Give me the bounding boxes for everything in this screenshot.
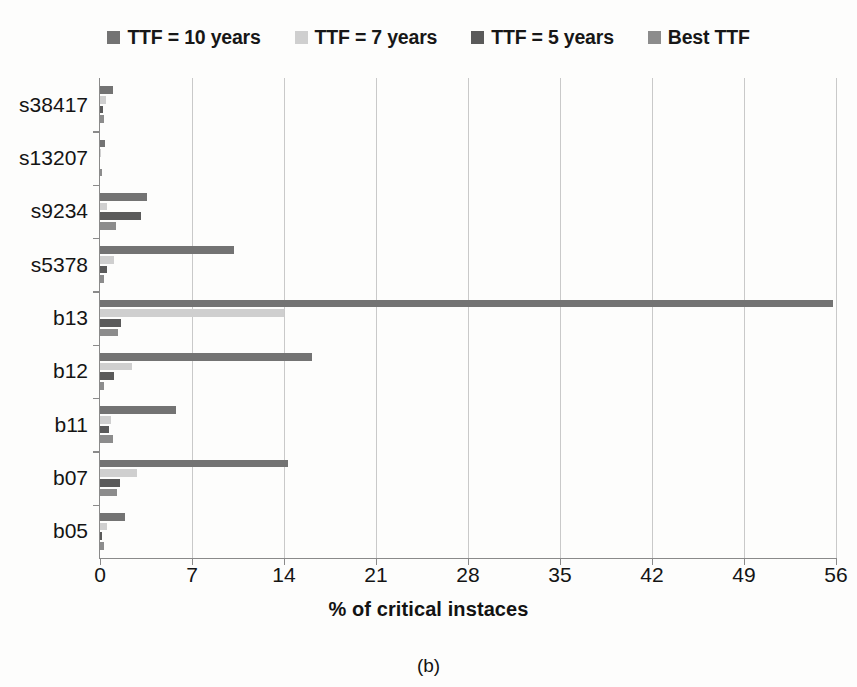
- y-axis-tick: [93, 451, 100, 452]
- bar: [100, 149, 101, 157]
- bar: [100, 460, 288, 468]
- gridline: [468, 78, 469, 558]
- bar: [100, 275, 104, 283]
- x-axis-tick-label: 28: [456, 563, 479, 587]
- bar: [100, 532, 102, 540]
- y-axis-tick: [93, 131, 100, 132]
- chart-legend: TTF = 10 years TTF = 7 years TTF = 5 yea…: [0, 20, 857, 54]
- y-axis-tick: [93, 345, 100, 346]
- gridline: [744, 78, 745, 558]
- bar: [100, 319, 121, 327]
- bar: [100, 193, 147, 201]
- x-axis-tick-label: 14: [272, 563, 295, 587]
- bar: [100, 416, 111, 424]
- y-axis-tick-label: s13207: [19, 146, 88, 170]
- bar: [100, 363, 132, 371]
- legend-item-best-ttf: Best TTF: [648, 26, 750, 49]
- gridline: [652, 78, 653, 558]
- x-axis-tick-label: 0: [94, 563, 106, 587]
- bar: [100, 426, 109, 434]
- bar: [100, 212, 141, 220]
- bar: [100, 115, 104, 123]
- legend-item-ttf-10: TTF = 10 years: [107, 26, 260, 49]
- bar: [100, 256, 114, 264]
- bar: [100, 489, 117, 497]
- y-axis-tick-label: b13: [53, 306, 88, 330]
- x-axis-tick-labels: 0714212835424956: [100, 563, 836, 593]
- x-axis-tick-label: 56: [824, 563, 847, 587]
- gridline: [560, 78, 561, 558]
- bar: [100, 435, 113, 443]
- legend-label-best-ttf: Best TTF: [668, 26, 750, 49]
- legend-swatch-best-ttf-icon: [648, 31, 661, 44]
- figure-caption: (b): [0, 655, 857, 677]
- legend-label-ttf-10: TTF = 10 years: [127, 26, 260, 49]
- plot-area: [100, 78, 836, 558]
- bar: [100, 513, 125, 521]
- x-axis-tick-label: 35: [548, 563, 571, 587]
- bar: [100, 203, 107, 211]
- bar: [100, 140, 105, 148]
- y-axis-tick-label: s9234: [31, 199, 88, 223]
- x-axis-title: % of critical instaces: [0, 598, 857, 621]
- legend-swatch-ttf-5-icon: [471, 31, 484, 44]
- bar: [100, 266, 107, 274]
- gridline: [836, 78, 837, 558]
- y-axis-tick: [93, 291, 100, 292]
- legend-swatch-ttf-10-icon: [107, 31, 120, 44]
- bar: [100, 406, 176, 414]
- bar: [100, 353, 312, 361]
- y-axis-tick-label: s5378: [31, 253, 88, 277]
- x-axis-tick-label: 21: [364, 563, 387, 587]
- bar: [100, 469, 137, 477]
- bar: [100, 169, 102, 177]
- y-axis-tick-label: b12: [53, 359, 88, 383]
- bar: [100, 96, 106, 104]
- legend-item-ttf-7: TTF = 7 years: [295, 26, 438, 49]
- legend-label-ttf-5: TTF = 5 years: [491, 26, 614, 49]
- bar: [100, 523, 107, 531]
- y-axis-tick-label: s38417: [19, 93, 88, 117]
- bar: [100, 372, 114, 380]
- x-axis-tick-label: 42: [640, 563, 663, 587]
- bar: [100, 542, 104, 550]
- y-axis-tick-labels: s38417s13207s9234s5378b13b12b11b07b05: [0, 78, 94, 558]
- legend-label-ttf-7: TTF = 7 years: [315, 26, 438, 49]
- bar: [100, 246, 234, 254]
- bar: [100, 309, 284, 317]
- bar: [100, 300, 833, 308]
- bar: [100, 106, 103, 114]
- y-axis-tick: [93, 398, 100, 399]
- y-axis-tick: [93, 185, 100, 186]
- figure-panel: TTF = 10 years TTF = 7 years TTF = 5 yea…: [0, 0, 857, 687]
- bar: [100, 222, 116, 230]
- x-axis-tick-label: 49: [732, 563, 755, 587]
- bar: [100, 382, 104, 390]
- bar: [100, 479, 120, 487]
- x-axis-tick-label: 7: [186, 563, 198, 587]
- y-axis-tick-label: b07: [53, 466, 88, 490]
- y-axis-tick-label: b11: [55, 413, 88, 437]
- y-axis-tick: [93, 238, 100, 239]
- y-axis-tick: [93, 505, 100, 506]
- y-axis-tick-label: b05: [53, 519, 88, 543]
- gridline: [192, 78, 193, 558]
- bar: [100, 329, 118, 337]
- legend-swatch-ttf-7-icon: [295, 31, 308, 44]
- gridline: [284, 78, 285, 558]
- gridline: [376, 78, 377, 558]
- bar: [100, 86, 113, 94]
- legend-item-ttf-5: TTF = 5 years: [471, 26, 614, 49]
